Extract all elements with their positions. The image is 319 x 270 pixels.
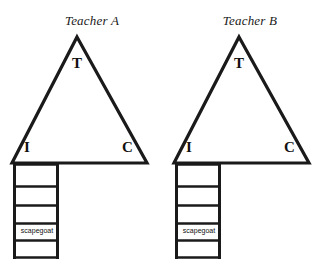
teacher-b-vertex-label-i: I xyxy=(186,140,192,155)
teacher-a-scapegoat-label: scapegoat xyxy=(14,226,60,235)
panel-teacher-b: Teacher B T I C scapegoat xyxy=(160,0,319,270)
teacher-b-vertex-label-c: C xyxy=(284,140,295,155)
teacher-a-vertex-label-c: C xyxy=(122,140,133,155)
diagram-canvas: Teacher A T I C scapegoat Teacher B xyxy=(0,0,319,270)
teacher-a-vertex-label-t: T xyxy=(72,56,82,71)
teacher-b-vertex-label-t: T xyxy=(234,56,244,71)
panel-teacher-a: Teacher A T I C scapegoat xyxy=(0,0,160,270)
teacher-b-ladder xyxy=(175,163,221,259)
teacher-a-vertex-label-i: I xyxy=(24,140,30,155)
teacher-b-scapegoat-label: scapegoat xyxy=(176,226,222,235)
teacher-a-ladder xyxy=(13,163,59,259)
